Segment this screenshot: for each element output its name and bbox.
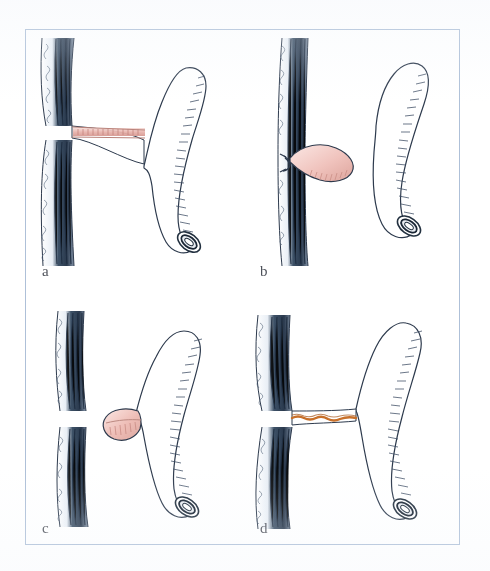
panel-d-illustration: [244, 287, 461, 543]
bowel-wall-upper-d: [256, 315, 292, 411]
figure-panel-c: c: [26, 287, 243, 543]
figure-frame: a: [25, 29, 460, 545]
panel-a-label: a: [42, 263, 49, 280]
bowel-wall-upper: [41, 38, 74, 126]
panel-c-label: c: [42, 520, 49, 537]
panel-c-illustration: [26, 287, 243, 543]
figure-panel-b: b: [244, 30, 461, 286]
panel-d-label: d: [260, 520, 268, 537]
panel-b-label: b: [260, 263, 268, 280]
appendix-d: [356, 323, 422, 523]
bowel-wall-lower-d: [256, 427, 292, 529]
appendiceal-base-a: [72, 126, 145, 164]
appendix-c: [136, 331, 202, 521]
cauterised-base-d: [292, 409, 356, 425]
bowel-wall-lower-c: [57, 427, 88, 527]
appendix-a: [144, 68, 206, 257]
figure-caption: [30, 556, 360, 566]
appendix-stump-c: [103, 409, 141, 440]
appendix-b: [373, 63, 428, 240]
bowel-wall-lower: [41, 140, 74, 266]
figure-panel-a: a: [26, 30, 243, 286]
figure-panel-d: d: [244, 287, 461, 543]
panel-b-illustration: [244, 30, 461, 286]
panel-a-illustration: [26, 30, 243, 286]
bowel-wall-upper-c: [56, 311, 86, 411]
